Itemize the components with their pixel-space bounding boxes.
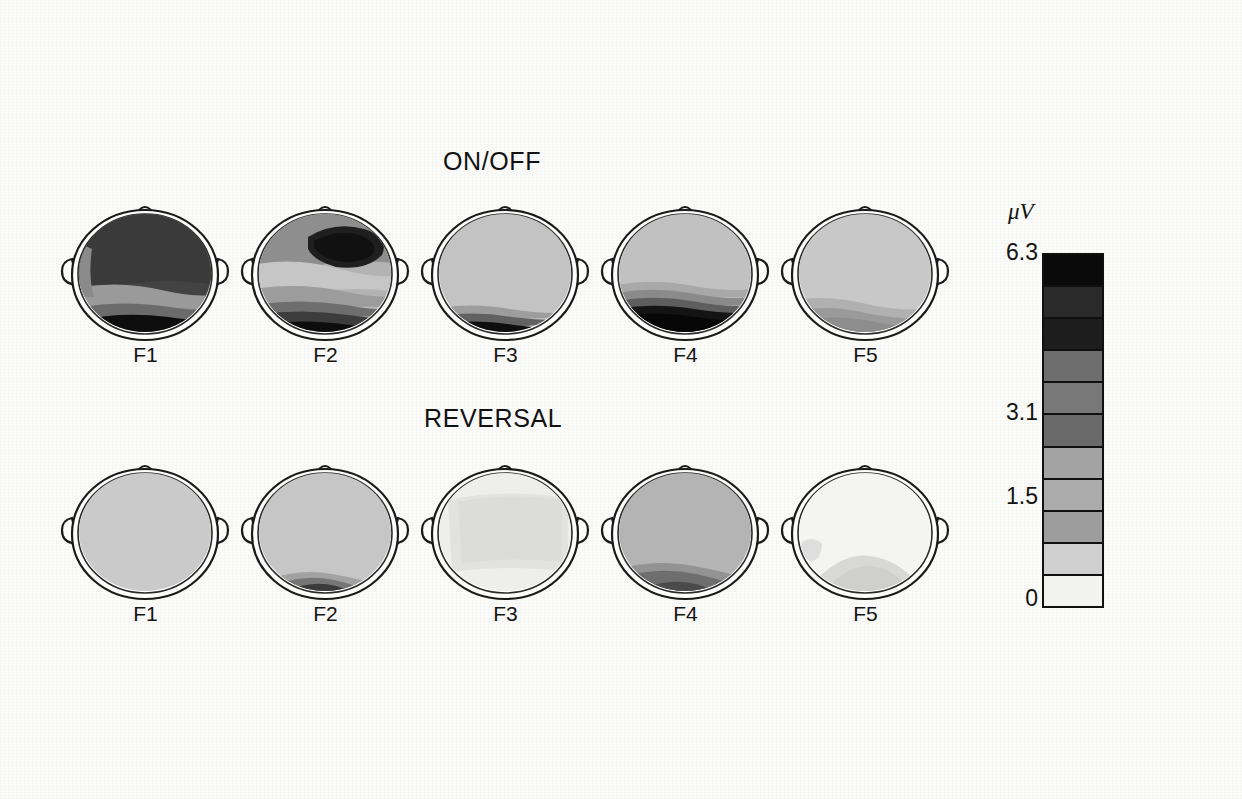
colorbar-tick-min: 0 <box>1025 585 1038 612</box>
row-title-reversal: REVERSAL <box>424 404 562 433</box>
head-label-reversal-f5: F5 <box>778 602 953 626</box>
colorbar-tick-max: 6.3 <box>1006 239 1038 266</box>
head-map-reversal-f3-field <box>418 452 593 612</box>
head-label-onoff-f5: F5 <box>778 343 953 367</box>
head-map-onoff-f1: F1 <box>58 193 233 368</box>
head-label-onoff-f2: F2 <box>238 343 413 367</box>
head-map-reversal-f2-svg <box>238 452 413 612</box>
head-label-onoff-f4: F4 <box>598 343 773 367</box>
head-map-reversal-f3: F3 <box>418 452 593 627</box>
head-map-onoff-f1-svg <box>58 193 233 353</box>
head-map-reversal-f4-svg <box>598 452 773 612</box>
colorbar-band-6 <box>1044 448 1102 480</box>
row-title-onoff: ON/OFF <box>443 147 541 176</box>
head-map-onoff-f3: F3 <box>418 193 593 368</box>
head-label-reversal-f4: F4 <box>598 602 773 626</box>
colorbar-band-7 <box>1044 480 1102 512</box>
colorbar-tick-mid-low: 1.5 <box>1006 483 1038 510</box>
head-map-reversal-f5: F5 <box>778 452 953 627</box>
head-map-reversal-f4: F4 <box>598 452 773 627</box>
colorbar-band-9 <box>1044 544 1102 576</box>
head-map-reversal-f1-field <box>58 452 233 612</box>
colorbar-bands <box>1042 253 1104 608</box>
head-map-onoff-f5: F5 <box>778 193 953 368</box>
head-map-reversal-f1: F1 <box>58 452 233 627</box>
head-label-reversal-f1: F1 <box>58 602 233 626</box>
head-map-reversal-f2-field <box>238 452 413 612</box>
colorbar-band-3 <box>1044 351 1102 383</box>
head-map-onoff-f2-field <box>238 193 413 353</box>
head-map-reversal-f3-svg <box>418 452 593 612</box>
head-map-onoff-f4-field <box>598 193 773 353</box>
colorbar-band-1 <box>1044 287 1102 319</box>
head-map-onoff-f2-svg <box>238 193 413 353</box>
head-map-reversal-f5-svg <box>778 452 953 612</box>
eeg-topography-figure: ON/OFF REVERSAL <box>0 0 1242 799</box>
head-map-onoff-f3-field <box>418 193 593 353</box>
head-map-onoff-f4-svg <box>598 193 773 353</box>
head-map-reversal-f5-field <box>778 452 953 612</box>
head-map-reversal-f4-field <box>598 452 773 612</box>
head-map-onoff-f5-svg <box>778 193 953 353</box>
colorbar-band-2 <box>1044 319 1102 351</box>
colorbar-units-label: μV <box>1008 199 1034 225</box>
colorbar: μV 6.3 3.1 1.5 0 <box>1000 195 1120 625</box>
head-label-onoff-f3: F3 <box>418 343 593 367</box>
head-map-onoff-f4: F4 <box>598 193 773 368</box>
colorbar-band-10 <box>1044 576 1102 606</box>
head-label-onoff-f1: F1 <box>58 343 233 367</box>
colorbar-tick-mid-high: 3.1 <box>1006 399 1038 426</box>
colorbar-band-4 <box>1044 383 1102 415</box>
head-label-reversal-f2: F2 <box>238 602 413 626</box>
head-map-onoff-f1-field <box>58 193 233 353</box>
colorbar-band-5 <box>1044 415 1102 447</box>
head-map-onoff-f2: F2 <box>238 193 413 368</box>
colorbar-band-8 <box>1044 512 1102 544</box>
colorbar-band-0 <box>1044 255 1102 287</box>
head-map-onoff-f3-svg <box>418 193 593 353</box>
head-map-reversal-f2: F2 <box>238 452 413 627</box>
head-map-onoff-f5-field <box>778 193 953 353</box>
head-map-reversal-f1-svg <box>58 452 233 612</box>
head-label-reversal-f3: F3 <box>418 602 593 626</box>
